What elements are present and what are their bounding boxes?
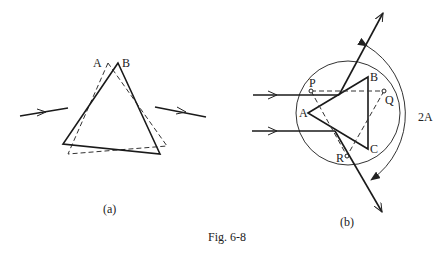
point-label-p: P	[309, 76, 316, 90]
point-label-q: Q	[385, 93, 394, 107]
vertex-label-a: A	[299, 106, 308, 120]
figure-canvas: A B (a) A B C P Q R 2A	[0, 0, 448, 253]
panel-b: A B C P Q R 2A (b)	[252, 13, 433, 229]
point-label-r: R	[336, 151, 344, 165]
vertex-label-c: C	[370, 142, 378, 156]
incident-ray	[20, 108, 68, 116]
solid-prism	[63, 63, 160, 154]
panel-label-b: (b)	[340, 215, 354, 229]
prism-triangle	[308, 77, 368, 149]
dashed-line-qr	[347, 91, 384, 156]
dashed-prism	[68, 63, 167, 154]
figure-caption: Fig. 6-8	[208, 230, 246, 244]
vertex-label-b: B	[370, 70, 378, 84]
panel-a: A B (a)	[20, 56, 206, 216]
angle-label-2a: 2A	[418, 110, 433, 124]
panel-label-a: (a)	[103, 202, 116, 216]
vertex-label-b: B	[122, 56, 130, 70]
vertex-label-a: A	[93, 56, 102, 70]
